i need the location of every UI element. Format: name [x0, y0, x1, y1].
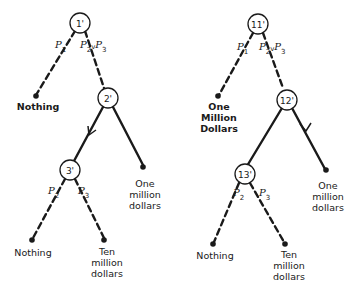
leaf-dot: [29, 237, 35, 243]
leaf-dot: [101, 237, 107, 243]
node-label: 12': [280, 96, 294, 106]
leaf-dot: [33, 93, 39, 99]
prob-label: P2: [232, 187, 244, 202]
leaf-dot: [210, 241, 216, 247]
node-label: 13': [238, 170, 252, 180]
outcome-label: One million dollars: [129, 178, 161, 211]
node-label: 11': [251, 20, 265, 30]
outcome-label: One million dollars: [312, 180, 344, 213]
decision-tree-diagram: 1' 2' 3' 11' 12' 13' P1 P2vP3 P2 P3 P1 P…: [0, 0, 363, 295]
leaf-dot: [323, 167, 329, 173]
outcome-label: Ten million dollars: [273, 249, 305, 282]
prob-label: P1: [54, 39, 66, 54]
node-label: 1': [76, 19, 84, 29]
outcome-label: Nothing: [17, 101, 60, 112]
outcome-label: Nothing: [196, 250, 233, 261]
choice-branch: [292, 108, 325, 169]
node-label: 3': [66, 166, 74, 176]
leaf-dot: [282, 241, 288, 247]
choice-branch: [247, 108, 282, 166]
prob-label: P2: [47, 185, 59, 200]
outcome-label: One Million Dollars: [200, 101, 238, 134]
chance-branch: [250, 183, 284, 242]
leaf-dot: [215, 93, 221, 99]
leaf-dot: [140, 164, 146, 170]
choice-branch: [113, 107, 143, 165]
outcome-label: Ten million dollars: [91, 246, 123, 279]
outcome-label: Nothing: [14, 247, 51, 258]
chance-branch: [219, 33, 253, 95]
node-label: 2': [104, 94, 112, 104]
